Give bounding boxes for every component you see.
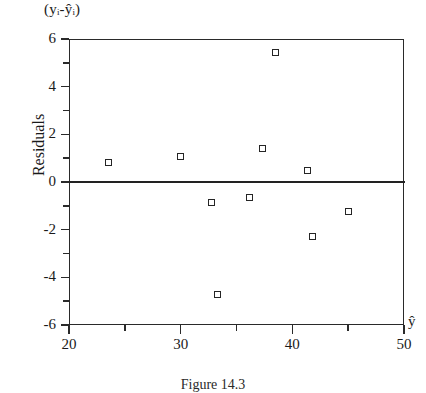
x-tick-major bbox=[292, 325, 294, 334]
x-tick-label: 20 bbox=[49, 337, 89, 352]
y-axis-formula-note: (yᵢ-ŷᵢ) bbox=[44, 1, 80, 18]
x-tick-major bbox=[403, 325, 405, 334]
y-tick-minor bbox=[63, 110, 69, 112]
y-tick-label: 2 bbox=[0, 126, 56, 141]
y-tick-label: 6 bbox=[0, 31, 56, 46]
x-tick-major bbox=[180, 325, 182, 334]
x-tick-label: 40 bbox=[272, 337, 312, 352]
y-tick-minor bbox=[63, 300, 69, 302]
data-point-marker bbox=[177, 153, 184, 160]
data-point-marker bbox=[105, 159, 112, 166]
y-tick-minor bbox=[63, 205, 69, 207]
y-tick-label: 4 bbox=[0, 79, 56, 94]
y-tick-minor bbox=[63, 62, 69, 64]
x-tick-minor bbox=[347, 325, 349, 331]
x-tick-major bbox=[68, 325, 70, 334]
y-tick-major bbox=[61, 277, 69, 279]
y-tick-label: -4 bbox=[0, 269, 56, 284]
data-point-marker bbox=[345, 208, 352, 215]
x-tick-label: 30 bbox=[161, 337, 201, 352]
y-tick-minor bbox=[63, 157, 69, 159]
y-tick-minor bbox=[63, 253, 69, 255]
x-axis-title: ŷ bbox=[408, 313, 416, 330]
x-tick-label: 50 bbox=[384, 337, 424, 352]
figure-caption: Figure 14.3 bbox=[0, 377, 426, 393]
data-point-marker bbox=[208, 199, 215, 206]
y-tick-major bbox=[61, 134, 69, 136]
y-tick-label: 0 bbox=[0, 174, 56, 189]
y-tick-major bbox=[61, 38, 69, 40]
data-point-marker bbox=[272, 49, 279, 56]
y-tick-major bbox=[61, 229, 69, 231]
y-tick-major bbox=[61, 86, 69, 88]
data-point-marker bbox=[309, 233, 316, 240]
data-point-marker bbox=[259, 145, 266, 152]
data-point-marker bbox=[214, 291, 221, 298]
data-point-marker bbox=[246, 194, 253, 201]
data-point-marker bbox=[304, 167, 311, 174]
y-tick-label: -2 bbox=[0, 222, 56, 237]
zero-reference-line bbox=[69, 181, 405, 183]
y-axis-formula-text: (yᵢ-ŷᵢ) bbox=[44, 1, 80, 17]
x-tick-minor bbox=[124, 325, 126, 331]
y-tick-label: -6 bbox=[0, 317, 56, 332]
y-tick-major bbox=[61, 181, 69, 183]
x-tick-minor bbox=[236, 325, 238, 331]
